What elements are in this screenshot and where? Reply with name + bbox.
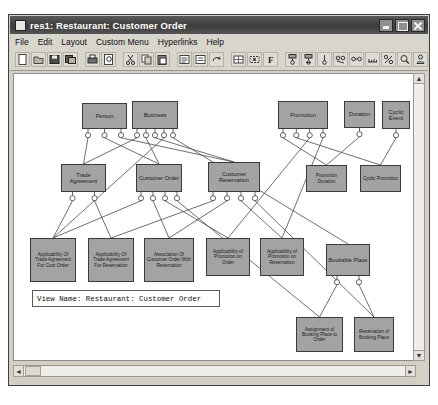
link-icon[interactable] [349,52,364,67]
diagram-node-label: Promotion Duration [307,173,346,184]
diagram-layer: PersonBusinessPromotionDurationCyclic Ev… [14,74,415,360]
scroll-left-button[interactable]: ◄ [13,365,24,377]
diagram-node-label: Reservation of Booking Place [355,329,393,340]
diagram-node-label: Applicability of Promotion on Reservatio… [261,249,303,265]
save-all-icon[interactable] [63,52,78,67]
diagram-node-label: Business [143,112,168,118]
diagram-node-label: Cyclic Event [383,109,409,122]
svg-text:F: F [268,55,274,65]
diagram-node-label: Person [95,113,115,119]
new-icon[interactable] [15,52,30,67]
diagram-node-bookable-place[interactable]: Bookable Place [326,244,370,276]
diagram-node-promotion[interactable]: Promotion [278,101,328,129]
align-center-icon[interactable] [193,52,208,67]
application-window: res1: Restaurant: Customer Order File Ed… [8,14,430,386]
diagram-node-cyclic-promotion[interactable]: Cyclic Promotion [360,165,401,192]
entity-icon[interactable] [285,52,300,67]
cut-icon[interactable] [123,52,138,67]
diagram-node-label: Duration [348,111,371,117]
maximize-button[interactable] [395,19,409,32]
diagram-node-customer-reservation[interactable]: Customer Reservation [208,162,260,192]
scroll-right-button[interactable]: ► [405,365,416,377]
paste-icon[interactable] [155,52,170,67]
scroll-down-button[interactable]: ▼ [413,350,425,361]
menu-item-custom-menu[interactable]: Custom Menu [96,37,149,47]
ruler-icon[interactable] [365,52,380,67]
diagram-node-label: Applicability Of Trade Agreement For Res… [89,252,133,268]
diagram-node-trade-agreement[interactable]: Trade Agreement [61,164,106,192]
percent-icon[interactable] [381,52,396,67]
diagram-canvas[interactable]: PersonBusinessPromotionDurationCyclic Ev… [13,73,416,361]
menu-item-help[interactable]: Help [207,37,224,47]
diagram-node-app-trade-reservation[interactable]: Applicability Of Trade Agreement For Res… [88,238,134,282]
diagram-node-label: Customer Order [138,175,180,181]
subtype-icon[interactable] [301,52,316,67]
diagram-node-promotion-duration[interactable]: Promotion Duration [306,165,347,192]
print-icon[interactable] [85,52,100,67]
window-title: res1: Restaurant: Customer Order [30,20,379,31]
scroll-up-button[interactable]: ▲ [413,73,425,84]
align-left-icon[interactable] [177,52,192,67]
diagram-node-app-promo-reservation[interactable]: Applicability of Promotion on Reservatio… [260,238,304,276]
select-icon[interactable] [247,52,262,67]
screenshot-root: res1: Restaurant: Customer Order File Ed… [0,0,438,405]
horizontal-scroll-thumb[interactable] [25,366,41,376]
minimize-button[interactable] [379,19,393,32]
undo-icon[interactable] [209,52,224,67]
zoom-icon[interactable] [397,52,412,67]
toolbar: F [10,49,428,71]
title-bar: res1: Restaurant: Customer Order [10,16,428,34]
menu-item-layout[interactable]: Layout [61,37,87,47]
diagram-node-app-promo-order[interactable]: Applicability of Promotion on Order [206,238,250,276]
menu-item-edit[interactable]: Edit [38,37,53,47]
diagram-node-duration[interactable]: Duration [344,101,375,128]
menu-item-hyperlinks[interactable]: Hyperlinks [158,37,198,47]
diagram-node-customer-order[interactable]: Customer Order [136,164,182,192]
horizontal-scrollbar[interactable]: ◄ ► [13,365,416,377]
app-icon [15,20,26,31]
diagram-node-label: Promotion [289,112,317,118]
vertical-scrollbar[interactable]: ▲ ▼ [413,73,425,361]
diagram-node-assign-booking-order[interactable]: Assignment of Booking Place to Order [296,317,343,352]
font-icon[interactable]: F [263,52,278,67]
print-preview-icon[interactable] [101,52,116,67]
grid-icon[interactable] [231,52,246,67]
open-icon[interactable] [31,52,46,67]
diagram-node-label: Applicability of Promotion on Order [207,249,249,265]
diagram-node-person[interactable]: Person [82,103,127,129]
attribute-icon[interactable] [317,52,332,67]
close-button[interactable] [411,19,425,32]
diagram-node-assoc-order-reservation[interactable]: Association Of Customer Order With Reser… [144,238,194,282]
diagram-node-cyclic-event[interactable]: Cyclic Event [382,101,410,129]
save-icon[interactable] [47,52,62,67]
diagram-node-reservation-booking[interactable]: Reservation of Booking Place [354,317,394,352]
menu-bar: File Edit Layout Custom Menu Hyperlinks … [10,34,428,49]
diagram-node-business[interactable]: Business [132,101,178,129]
view-name-label: View Name: Restaurant: Customer Order [32,290,220,307]
diagram-node-label: Trade Agreement [62,172,105,185]
diagram-node-app-trade-cust-order[interactable]: Applicability Of Trade Agreement For Cus… [30,238,76,282]
person-icon[interactable] [413,52,428,67]
copy-icon[interactable] [139,52,154,67]
diagram-node-label: Assignment of Booking Place to Order [297,327,342,343]
diagram-node-label: Bookable Place [328,257,369,263]
diagram-node-label: Cyclic Promotion [362,176,399,181]
diagram-node-label: Applicability Of Trade Agreement For Cus… [31,252,75,268]
window-buttons [379,19,426,32]
status-bar [13,378,416,384]
diagram-node-label: Customer Reservation [209,171,259,184]
menu-item-file[interactable]: File [15,37,29,47]
diagram-node-label: Association Of Customer Order With Reser… [145,252,193,268]
relation-icon[interactable] [333,52,348,67]
